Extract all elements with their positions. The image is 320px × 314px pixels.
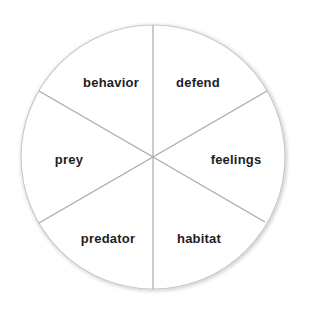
- segment-label-feelings: feelings: [211, 152, 262, 167]
- segment-label-predator: predator: [81, 231, 135, 246]
- segment-label-habitat: habitat: [177, 231, 221, 246]
- segment-label-prey: prey: [55, 152, 83, 167]
- segment-label-behavior: behavior: [83, 75, 139, 90]
- segment-label-defend: defend: [176, 75, 220, 90]
